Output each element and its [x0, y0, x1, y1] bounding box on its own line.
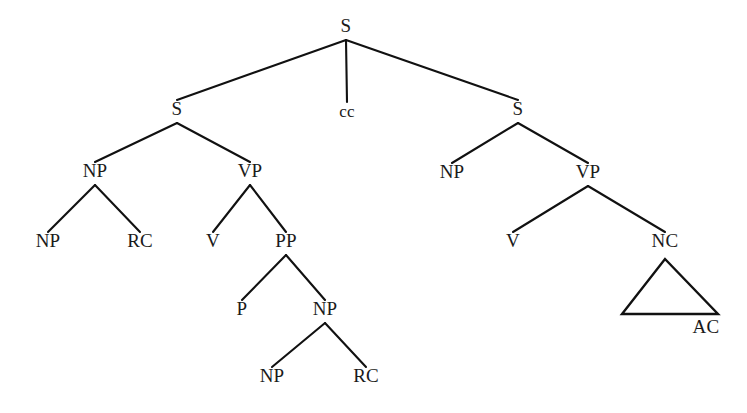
tree-node-s1: S — [172, 98, 183, 119]
tree-node-rc1: RC — [127, 230, 153, 251]
tree-node-rc2: RC — [353, 365, 379, 386]
tree-edge-vp1-to-v1 — [213, 185, 250, 232]
tree-node-pp1: PP — [275, 230, 297, 251]
tree-node-vp1: VP — [238, 160, 263, 181]
tree-node-ac1: AC — [693, 316, 720, 337]
tree-edge-np3-to-np4 — [272, 323, 325, 367]
tree-edge-s2-to-vp2 — [518, 123, 588, 163]
tree-edge-layer — [48, 40, 665, 367]
tree-edge-s1-to-vp1 — [177, 123, 250, 162]
tree-node-np5: NP — [440, 161, 465, 182]
tree-node-np2: NP — [36, 230, 61, 251]
tree-edge-vp1-to-pp1 — [250, 185, 286, 232]
tree-node-v2: V — [506, 230, 520, 251]
tree-edge-s1-to-np1 — [95, 123, 177, 162]
tree-edge-s0-to-cc — [346, 40, 347, 102]
tree-edge-pp1-to-np3 — [286, 255, 325, 300]
tree-node-np4: NP — [260, 365, 285, 386]
tree-edge-np1-to-np2 — [48, 185, 95, 232]
tree-node-s2: S — [513, 98, 524, 119]
tree-edge-s0-to-s1 — [177, 40, 346, 100]
tree-node-nc1: NC — [652, 230, 679, 251]
tree-triangle-tri1 — [622, 259, 718, 314]
tree-edge-np1-to-rc1 — [95, 185, 140, 232]
tree-edge-s2-to-np5 — [452, 123, 518, 163]
tree-node-np1: NP — [83, 160, 108, 181]
tree-node-p1: P — [237, 298, 248, 319]
tree-edge-s0-to-s2 — [346, 40, 518, 100]
syntax-tree-canvas: SSccSNPVPNPRCVPPPNPNPRCNPVPVNCAC — [0, 0, 747, 413]
tree-node-cc: cc — [339, 102, 355, 121]
tree-node-label-layer: SSccSNPVPNPRCVPPPNPNPRCNPVPVNCAC — [36, 15, 720, 386]
tree-edge-vp2-to-nc1 — [588, 186, 665, 232]
tree-node-np3: NP — [313, 298, 338, 319]
syntax-tree-figure: SSccSNPVPNPRCVPPPNPNPRCNPVPVNCAC — [0, 0, 747, 413]
tree-triangle-layer — [622, 259, 718, 314]
tree-node-vp2: VP — [576, 161, 601, 182]
tree-node-s0: S — [341, 15, 352, 36]
tree-edge-np3-to-rc2 — [325, 323, 366, 367]
tree-edge-pp1-to-p1 — [242, 255, 286, 300]
tree-edge-vp2-to-v2 — [513, 186, 588, 232]
tree-node-v1: V — [206, 230, 220, 251]
